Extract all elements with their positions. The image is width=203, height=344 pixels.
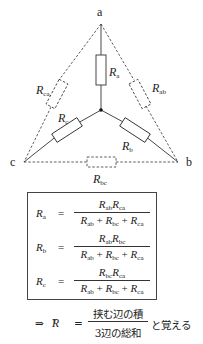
formula-box: Ra = RabRca Rab + Rbc + Rca Rb = RabRbc … — [27, 192, 157, 300]
node-a-label: a — [97, 6, 102, 18]
label-rc: Rc — [58, 112, 68, 126]
denominator: Rab + Rbc + Rca — [74, 248, 150, 262]
formula-rc: Rc = RbcRca Rab + Rbc + Rca — [36, 266, 154, 296]
fraction-bar — [88, 321, 148, 322]
node-c-label: c — [10, 156, 15, 168]
neutral-point — [99, 108, 103, 112]
numerator: RabRbc — [74, 232, 150, 246]
equals-sign: = — [74, 317, 83, 329]
resistor-rab — [129, 79, 151, 108]
formula-rb: Rb = RabRbc Rab + Rbc + Rca — [36, 232, 154, 262]
mnemonic: ⇒ RY = 挟む辺の積 3辺の総和 と覚える — [30, 305, 190, 341]
label-rb: Rb — [122, 140, 133, 154]
resistor-ra — [96, 55, 106, 85]
label-rab: Rab — [152, 82, 166, 96]
label-ra: Ra — [109, 66, 119, 80]
resistor-rbc — [87, 157, 116, 167]
mnemonic-numerator: 挟む辺の積 — [88, 306, 148, 321]
label-rbc: Rbc — [93, 173, 107, 187]
denominator: Rab + Rbc + Rca — [74, 214, 150, 228]
implies-arrow: ⇒ — [35, 317, 44, 329]
fraction-bar — [74, 246, 150, 247]
node-b-label: b — [186, 156, 192, 168]
mnemonic-denominator: 3辺の総和 — [88, 325, 148, 340]
numerator: RbcRca — [74, 266, 150, 280]
fraction-bar — [74, 280, 150, 281]
mnemonic-suffix: と覚える — [151, 317, 191, 332]
denominator: Rab + Rbc + Rca — [74, 282, 150, 296]
label-rca: Rca — [36, 84, 50, 98]
numerator: RabRca — [74, 198, 150, 212]
fraction-bar — [74, 212, 150, 213]
formula-ra: Ra = RabRca Rab + Rbc + Rca — [36, 198, 154, 228]
